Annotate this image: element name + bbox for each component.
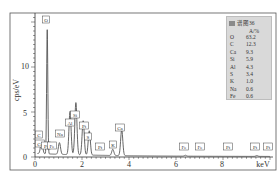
legend-row: Ca9.3	[227, 49, 271, 56]
legend-row: Na0.6	[227, 86, 271, 93]
legend-row: C12.3	[227, 41, 271, 48]
svg-text:O: O	[44, 18, 48, 23]
peak-label: Pt	[251, 143, 260, 150]
peak-label: Pt	[224, 143, 233, 150]
x-axis-label: keV	[256, 160, 270, 169]
legend-swatch	[229, 21, 235, 26]
svg-text:Al: Al	[68, 121, 74, 126]
x-tick-label-2: 2	[80, 160, 84, 169]
peak-label: Pt	[96, 143, 105, 150]
peak-label: Pt	[264, 143, 273, 150]
legend-row: Si5.9	[227, 56, 271, 63]
legend-row: Fe0.6	[227, 93, 271, 100]
legend-header: 谱图36	[227, 17, 271, 28]
svg-text:Pt: Pt	[98, 145, 103, 150]
legend-title: 谱图36	[237, 19, 255, 27]
peak-label: Al	[66, 119, 75, 126]
svg-text:Fe: Fe	[182, 145, 188, 150]
y-tick-label-0: 0	[23, 153, 27, 162]
y-tick-label-5: 5	[23, 109, 27, 118]
y-axis-label: cps/eV	[12, 79, 21, 101]
y-tick-label-10: 10	[21, 62, 29, 71]
peak-label: Si	[71, 111, 80, 118]
svg-text:K: K	[111, 143, 115, 148]
x-tick-label-6: 6	[174, 160, 178, 169]
svg-text:Pt: Pt	[82, 124, 87, 129]
svg-text:Na: Na	[57, 132, 64, 137]
y-axis-ticks	[31, 18, 35, 158]
peak-label: Fe	[196, 143, 205, 150]
peak-label: Ca	[116, 124, 125, 131]
svg-text:Ca: Ca	[117, 126, 123, 131]
composition-legend: 谱图36 A/% O63.2 C12.3 Ca9.3 Si5.9 Al4.3 S…	[226, 16, 272, 100]
legend-row: S3.4	[227, 71, 271, 78]
x-tick-label-4: 4	[127, 160, 131, 169]
svg-text:Si: Si	[73, 113, 78, 118]
peak-label: O	[43, 16, 50, 23]
x-axis-ticks	[35, 157, 270, 160]
peak-label: Na	[56, 130, 65, 137]
svg-text:S: S	[87, 135, 90, 140]
legend-row: O63.2	[227, 34, 271, 41]
peak-label: C	[36, 131, 43, 138]
x-tick-label-0: 0	[33, 160, 37, 169]
peak-label: K	[110, 141, 117, 148]
peak-label: Fe	[48, 142, 57, 149]
x-tick-label-8: 8	[220, 160, 224, 169]
legend-row: K1.0	[227, 78, 271, 85]
legend-row: Al4.3	[227, 64, 271, 71]
svg-text:Pt: Pt	[226, 145, 231, 150]
svg-text:Pt: Pt	[266, 145, 271, 150]
svg-text:Pt: Pt	[253, 145, 258, 150]
peak-label: S	[85, 133, 92, 140]
peak-label: Pt	[80, 122, 89, 129]
svg-text:Fe: Fe	[50, 144, 56, 149]
peak-label: Fe	[180, 143, 189, 150]
svg-text:Fe: Fe	[198, 145, 204, 150]
